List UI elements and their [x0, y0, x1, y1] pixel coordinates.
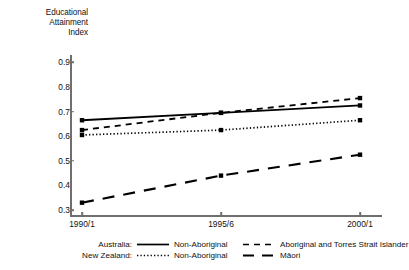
series-line: [82, 155, 360, 203]
series-marker: [358, 118, 362, 122]
y-tick-label: 0.8: [36, 82, 70, 92]
y-tick-label: 0.9: [36, 57, 70, 67]
x-tick-label: 2000/1: [347, 219, 373, 229]
series-marker: [80, 118, 84, 122]
x-tick-mark: [220, 212, 222, 217]
legend-swatch-dashed-short: [242, 239, 276, 250]
x-tick-label: 1990/1: [69, 219, 95, 229]
legend-label-australia-non-aboriginal: Non-Aboriginal: [174, 239, 228, 250]
series-line: [82, 98, 360, 130]
series-marker: [358, 96, 362, 100]
legend-prefix-australia: Australia:: [62, 239, 132, 250]
legend-label-newzealand-non-aboriginal: Non-Aboriginal: [174, 250, 228, 261]
legend-label-maori: Māori: [280, 250, 300, 261]
y-tick-mark: [70, 111, 74, 113]
y-tick-label: 0.3: [36, 205, 70, 215]
x-tick-mark: [81, 212, 83, 217]
legend-label-aboriginal-torres-strait: Aboriginal and Torres Strait Islander: [280, 239, 409, 250]
series-marker: [80, 200, 84, 204]
series-line: [82, 120, 360, 135]
series-marker: [80, 133, 84, 137]
y-tick-label: 0.5: [36, 156, 70, 166]
y-axis-ticks: 0.30.40.50.60.70.80.9: [0, 0, 70, 270]
y-tick-label: 0.7: [36, 107, 70, 117]
series-marker: [219, 111, 223, 115]
series-marker: [80, 128, 84, 132]
x-tick-label: 1995/6: [208, 219, 234, 229]
legend-row-new-zealand: New Zealand: Non-Aboriginal Māori: [62, 250, 392, 261]
y-tick-label: 0.6: [36, 131, 70, 141]
series-marker: [219, 173, 223, 177]
series-marker: [358, 103, 362, 107]
y-tick-mark: [70, 62, 74, 64]
series-marker: [358, 152, 362, 156]
x-tick-mark: [359, 212, 361, 217]
y-tick-mark: [70, 160, 74, 162]
series-marker: [219, 128, 223, 132]
legend-swatch-dashed-long: [242, 250, 276, 261]
series-marker: [219, 111, 223, 115]
series-line: [82, 105, 360, 120]
y-tick-mark: [70, 209, 74, 211]
legend-swatch-solid: [136, 239, 170, 250]
chart-legend: Australia: Non-Aboriginal Aboriginal and…: [62, 239, 392, 265]
legend-swatch-dotted: [136, 250, 170, 261]
x-axis-line: [70, 215, 382, 217]
legend-row-australia: Australia: Non-Aboriginal Aboriginal and…: [62, 239, 392, 250]
y-tick-label: 0.4: [36, 180, 70, 190]
y-axis-line: [70, 55, 72, 217]
legend-prefix-new-zealand: New Zealand:: [62, 250, 132, 261]
